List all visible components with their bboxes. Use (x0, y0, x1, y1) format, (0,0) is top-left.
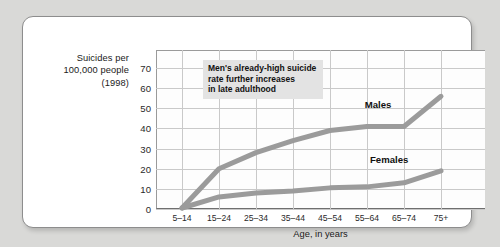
y-axis-caption-line-3: (1998) (41, 77, 129, 89)
y-axis-tick-label: 70 (140, 63, 151, 74)
plot-area: 010203040506070 5–1415–2425–3435–4445–54… (156, 50, 485, 209)
y-axis-tick-label: 50 (140, 103, 151, 114)
gridline-horizontal (156, 209, 485, 210)
annotation-callout: Men's already-high suicide rate further … (203, 60, 323, 99)
y-axis-caption: Suicides per 100,000 people (1998) (41, 52, 129, 89)
y-axis-tick-label: 60 (140, 83, 151, 94)
y-axis-caption-line-1: Suicides per (41, 52, 129, 64)
chart-card: Suicides per 100,000 people (1998) 01020… (22, 16, 472, 228)
chart-page: Suicides per 100,000 people (1998) 01020… (0, 0, 500, 247)
annotation-line-3: in late adulthood (208, 84, 316, 95)
series-label-females: Females (370, 153, 408, 164)
x-axis-title: Age, in years (156, 229, 485, 239)
y-axis-tick-label: 0 (146, 204, 151, 215)
x-axis-tick-label: 5–14 (172, 213, 191, 223)
y-axis-caption-line-2: 100,000 people (41, 64, 129, 76)
x-axis-tick-label: 15–24 (207, 213, 231, 223)
x-axis-tick-label: 45–54 (318, 213, 342, 223)
y-axis-tick-label: 30 (140, 143, 151, 154)
y-axis-tick-label: 10 (140, 183, 151, 194)
y-axis-tick-label: 20 (140, 163, 151, 174)
x-axis-tick-label: 65–74 (392, 213, 416, 223)
series-line-females (182, 171, 441, 208)
y-axis-tick-label: 40 (140, 123, 151, 134)
annotation-line-2: rate further increases (208, 74, 316, 85)
x-axis-tick-label: 25–34 (244, 213, 268, 223)
x-axis-tick-label: 55–64 (355, 213, 379, 223)
x-axis-tick-label: 75+ (434, 213, 449, 223)
x-axis-tick-label: 35–44 (281, 213, 305, 223)
annotation-line-1: Men's already-high suicide (208, 63, 316, 74)
series-label-males: Males (365, 99, 392, 110)
